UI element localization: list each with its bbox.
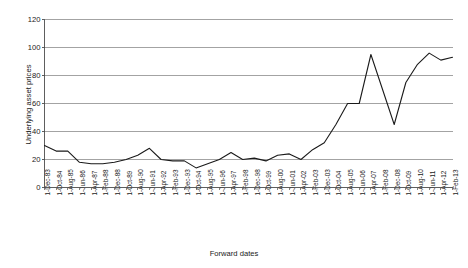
- axis-ticks: [42, 20, 453, 191]
- gridlines: [45, 20, 453, 188]
- plot-area: [0, 0, 468, 268]
- data-series-line: [45, 53, 453, 168]
- line-chart: Underlying asset prices Forward dates 02…: [0, 0, 468, 268]
